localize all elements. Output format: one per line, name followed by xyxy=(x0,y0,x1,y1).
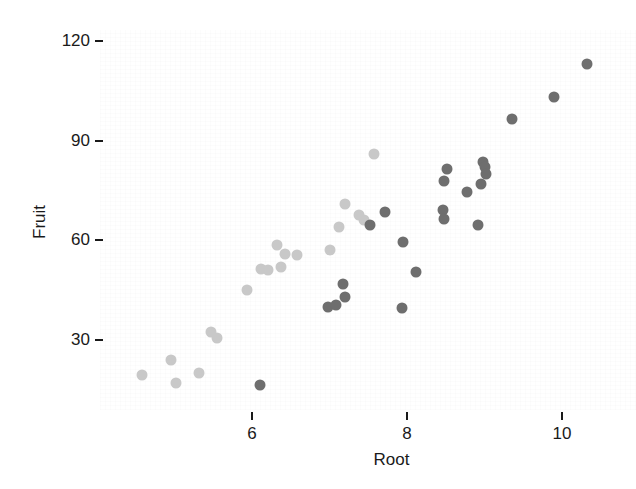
data-point xyxy=(476,178,487,189)
data-point xyxy=(279,248,290,259)
data-point xyxy=(337,278,348,289)
data-point xyxy=(171,378,182,389)
data-point xyxy=(242,285,253,296)
data-point xyxy=(324,245,335,256)
data-point xyxy=(136,369,147,380)
data-point xyxy=(333,222,344,233)
data-point xyxy=(439,175,450,186)
x-tick-mark xyxy=(251,412,253,420)
data-point xyxy=(396,303,407,314)
data-point xyxy=(549,92,560,103)
data-point xyxy=(275,261,286,272)
data-point xyxy=(194,368,205,379)
x-tick-mark xyxy=(406,412,408,420)
plot-area: 3060901206810 xyxy=(0,0,636,489)
x-tick-label: 8 xyxy=(402,424,411,444)
data-point xyxy=(380,207,391,218)
data-point xyxy=(368,148,379,159)
data-point xyxy=(581,59,592,70)
y-tick-mark xyxy=(95,40,103,42)
data-point xyxy=(507,114,518,125)
data-point xyxy=(291,250,302,261)
x-tick-mark xyxy=(561,412,563,420)
data-point xyxy=(439,213,450,224)
data-point xyxy=(462,187,473,198)
data-point xyxy=(442,163,453,174)
data-point xyxy=(411,266,422,277)
y-tick-label: 120 xyxy=(62,31,90,51)
data-point xyxy=(398,236,409,247)
data-point xyxy=(165,354,176,365)
data-point xyxy=(254,379,265,390)
y-tick-mark xyxy=(95,239,103,241)
y-tick-label: 90 xyxy=(71,131,90,151)
y-tick-label: 30 xyxy=(71,330,90,350)
data-point xyxy=(330,300,341,311)
data-point xyxy=(340,291,351,302)
data-point xyxy=(340,198,351,209)
y-tick-mark xyxy=(95,140,103,142)
x-tick-label: 10 xyxy=(553,424,572,444)
x-tick-label: 6 xyxy=(247,424,256,444)
data-point xyxy=(473,220,484,231)
y-tick-label: 60 xyxy=(71,230,90,250)
scatter-plot-figure: Fruit Root 3060901206810 xyxy=(0,0,636,489)
data-point xyxy=(212,333,223,344)
data-point xyxy=(364,220,375,231)
data-point xyxy=(262,265,273,276)
y-tick-mark xyxy=(95,339,103,341)
